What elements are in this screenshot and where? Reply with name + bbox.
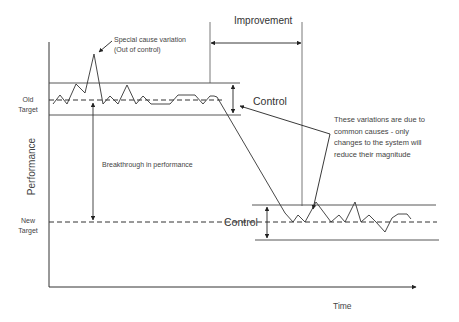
control-chart-diagram xyxy=(0,0,459,322)
old-target-line2: Target xyxy=(14,105,42,115)
y-axis-label: Performance xyxy=(26,132,37,202)
common-causes-line-1: These variations are due to xyxy=(334,114,425,126)
improvement-bracket xyxy=(210,22,302,206)
common-causes-note: These variations are due to common cause… xyxy=(334,114,425,160)
new-target-line1: New xyxy=(14,216,42,226)
old-control-limits xyxy=(49,83,241,115)
common-causes-line-2: common causes - only xyxy=(334,126,425,138)
special-cause-line1: Special cause variation xyxy=(114,35,186,45)
breakthrough-label: Breakthrough in performance xyxy=(102,160,193,170)
control-label-old: Control xyxy=(253,95,287,107)
old-target-line1: Old xyxy=(14,95,42,105)
x-axis-label: Time xyxy=(333,301,352,311)
special-cause-line2: (Out of control) xyxy=(114,45,186,55)
control-label-new: Control xyxy=(224,216,258,228)
old-target-label: Old Target xyxy=(14,95,42,115)
special-cause-arrow xyxy=(99,41,112,52)
common-causes-line-3: changes to the system will xyxy=(334,137,425,149)
common-causes-arrows xyxy=(240,106,330,209)
improvement-label: Improvement xyxy=(234,15,292,26)
new-target-label: New Target xyxy=(14,216,42,236)
common-causes-line-4: reduce their magnitude xyxy=(334,149,425,161)
new-target-line2: Target xyxy=(14,226,42,236)
special-cause-label: Special cause variation (Out of control) xyxy=(114,35,186,55)
